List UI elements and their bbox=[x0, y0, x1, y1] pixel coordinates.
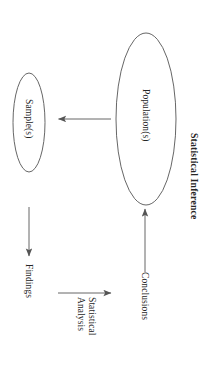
statistical-analysis-label: Statistical Analysis bbox=[76, 297, 97, 336]
sample-label: Sample(s) bbox=[23, 99, 33, 138]
conclusions-label: Conclusions bbox=[139, 272, 149, 320]
diagram-vector-layer bbox=[0, 0, 212, 383]
figure-title: Statistical Inference bbox=[189, 133, 199, 220]
population-label: Population(s) bbox=[140, 89, 150, 142]
statistical-analysis-line-2: Analysis bbox=[76, 297, 87, 336]
statistical-inference-diagram: Population(s) Sample(s) Findings Conclus… bbox=[0, 0, 212, 383]
findings-label: Findings bbox=[23, 264, 33, 298]
statistical-analysis-line-1: Statistical bbox=[86, 297, 97, 336]
